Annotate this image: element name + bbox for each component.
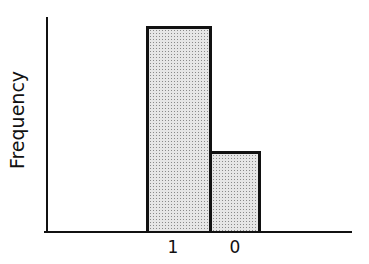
x-axis	[44, 231, 352, 233]
y-axis-label: Frequency	[6, 70, 28, 170]
x-tick-label-1: 1	[163, 237, 183, 257]
bar-category-1	[146, 26, 212, 231]
bar-category-0	[209, 151, 261, 231]
frequency-bar-chart: Frequency 1 0	[0, 0, 369, 264]
x-tick-label-0: 0	[225, 237, 245, 257]
y-axis	[46, 17, 48, 233]
